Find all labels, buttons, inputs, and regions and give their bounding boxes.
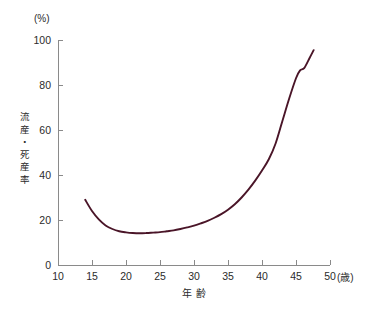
y-axis-unit-label: (%) [34, 13, 50, 24]
chart-svg: 020406080100 101520253035404550 (%) (歳) … [0, 0, 373, 316]
x-axis-title: 年 齢 [182, 287, 207, 299]
y-axis-title-char: 産 [20, 161, 30, 172]
axes-group [58, 40, 330, 265]
y-ticks-group: 020406080100 [33, 34, 63, 271]
y-axis-title: 流産・死産率 [20, 111, 30, 185]
y-tick-label: 60 [39, 124, 51, 136]
x-tick-label: 15 [86, 270, 98, 282]
y-axis-title-char: 流 [20, 111, 30, 122]
x-tick-label: 10 [52, 270, 64, 282]
y-tick-label: 0 [45, 259, 51, 271]
y-axis-title-char: 率 [20, 174, 30, 185]
x-tick-label: 30 [188, 270, 200, 282]
x-tick-label: 45 [290, 270, 302, 282]
y-tick-label: 80 [39, 79, 51, 91]
x-tick-label: 35 [222, 270, 234, 282]
y-axis-title-char: 産 [20, 124, 30, 135]
chart-figure: 020406080100 101520253035404550 (%) (歳) … [0, 0, 373, 316]
x-tick-label: 50 [324, 270, 336, 282]
x-tick-label: 20 [120, 270, 132, 282]
y-tick-label: 100 [33, 34, 51, 46]
x-tick-label: 40 [256, 270, 268, 282]
y-tick-label: 40 [39, 169, 51, 181]
x-tick-label: 25 [154, 270, 166, 282]
y-tick-label: 20 [39, 214, 51, 226]
x-axis-unit-label: (歳) [337, 272, 354, 283]
y-axis-title-char: 死 [20, 149, 30, 160]
y-axis-title-char: ・ [20, 136, 30, 147]
data-series-line [85, 50, 313, 233]
x-ticks-group: 101520253035404550 [52, 260, 336, 282]
